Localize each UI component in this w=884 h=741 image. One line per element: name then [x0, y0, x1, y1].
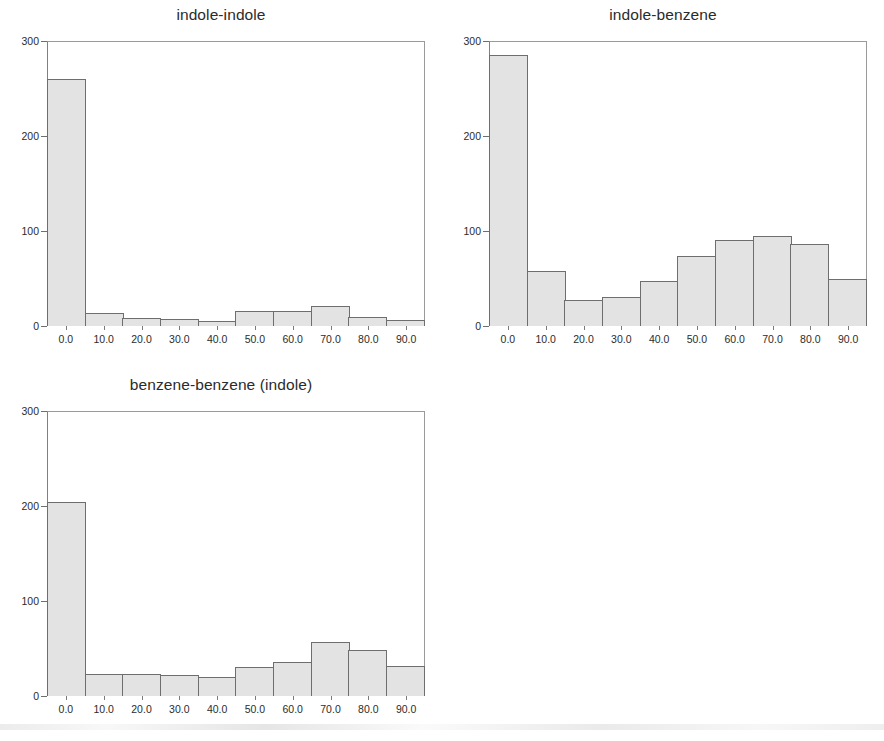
- bar-series: [489, 41, 867, 326]
- y-tick-label: 100: [21, 225, 39, 237]
- y-tick-label: 200: [21, 130, 39, 142]
- x-tick-label: 60.0: [282, 333, 302, 345]
- x-tick-label: 70.0: [762, 333, 782, 345]
- x-tick-mark: [217, 326, 218, 330]
- x-tick-mark: [293, 326, 294, 330]
- x-tick-label: 50.0: [687, 333, 707, 345]
- histogram-bar: [235, 311, 274, 326]
- y-tick-label: 0: [475, 320, 481, 332]
- histogram-bar: [489, 55, 528, 326]
- y-tick-label: 100: [463, 225, 481, 237]
- histogram-bar: [47, 79, 86, 326]
- histogram-bar: [602, 297, 641, 326]
- histogram-bar: [348, 650, 387, 696]
- y-tick-mark: [41, 411, 47, 412]
- histogram-bar: [715, 240, 754, 326]
- x-tick-mark: [293, 696, 294, 700]
- y-tick-label: 100: [21, 595, 39, 607]
- x-tick-label: 20.0: [573, 333, 593, 345]
- x-tick-mark: [104, 326, 105, 330]
- y-tick-mark: [41, 136, 47, 137]
- histogram-bar: [160, 319, 199, 326]
- histogram-bar: [85, 674, 124, 696]
- histogram-bar: [122, 674, 161, 696]
- histogram-bar: [564, 300, 603, 326]
- x-tick-mark: [255, 326, 256, 330]
- panel-title: benzene-benzene (indole): [0, 376, 442, 394]
- x-tick-label: 10.0: [535, 333, 555, 345]
- x-tick-mark: [217, 696, 218, 700]
- histogram-bar: [677, 256, 716, 326]
- histogram-bar: [85, 313, 124, 326]
- x-tick-label: 80.0: [800, 333, 820, 345]
- y-tick-mark: [41, 41, 47, 42]
- x-tick-mark: [142, 696, 143, 700]
- y-tick-label: 300: [463, 35, 481, 47]
- x-tick-mark: [331, 326, 332, 330]
- histogram-bar: [311, 306, 350, 326]
- panel-title: indole-benzene: [442, 6, 884, 24]
- bar-series: [47, 411, 425, 696]
- x-tick-mark: [406, 696, 407, 700]
- y-tick-label: 300: [21, 405, 39, 417]
- x-tick-mark: [848, 326, 849, 330]
- y-tick-label: 0: [33, 690, 39, 702]
- x-tick-label: 20.0: [131, 703, 151, 715]
- x-tick-mark: [179, 696, 180, 700]
- x-tick-label: 0.0: [59, 703, 74, 715]
- x-tick-mark: [621, 326, 622, 330]
- histogram-bar: [348, 317, 387, 327]
- histogram-bar: [640, 281, 679, 326]
- histogram-bar: [790, 244, 829, 326]
- x-tick-mark: [773, 326, 774, 330]
- x-tick-label: 0.0: [59, 333, 74, 345]
- plot-area: 0100200300 0.010.020.030.040.050.060.070…: [47, 41, 425, 326]
- x-tick-label: 40.0: [649, 333, 669, 345]
- histogram-bar: [235, 667, 274, 696]
- y-tick-mark: [41, 601, 47, 602]
- histogram-panel-indole-benzene: indole-benzene 0100200300 0.010.020.030.…: [442, 0, 884, 370]
- x-tick-mark: [508, 326, 509, 330]
- x-tick-label: 60.0: [724, 333, 744, 345]
- histogram-bar: [828, 279, 867, 326]
- x-tick-mark: [331, 696, 332, 700]
- histogram-bar: [311, 642, 350, 696]
- x-tick-label: 50.0: [245, 703, 265, 715]
- histogram-bar: [47, 502, 86, 696]
- y-tick-label: 300: [21, 35, 39, 47]
- plot-area: 0100200300 0.010.020.030.040.050.060.070…: [489, 41, 867, 326]
- x-tick-label: 90.0: [396, 333, 416, 345]
- bar-series: [47, 41, 425, 326]
- x-tick-label: 70.0: [320, 333, 340, 345]
- x-axis: 0.010.020.030.040.050.060.070.080.090.0: [47, 326, 425, 352]
- histogram-panel-indole-indole: indole-indole 0100200300 0.010.020.030.0…: [0, 0, 442, 370]
- x-tick-label: 40.0: [207, 333, 227, 345]
- x-tick-label: 70.0: [320, 703, 340, 715]
- x-axis: 0.010.020.030.040.050.060.070.080.090.0: [489, 326, 867, 352]
- x-tick-label: 10.0: [93, 333, 113, 345]
- x-tick-mark: [179, 326, 180, 330]
- x-tick-label: 20.0: [131, 333, 151, 345]
- x-tick-label: 0.0: [501, 333, 516, 345]
- x-tick-mark: [368, 326, 369, 330]
- x-tick-label: 50.0: [245, 333, 265, 345]
- histogram-bar: [753, 236, 792, 326]
- x-tick-mark: [255, 696, 256, 700]
- histogram-panel-benzene-benzene: benzene-benzene (indole) 0100200300 0.01…: [0, 370, 442, 740]
- y-tick-label: 0: [33, 320, 39, 332]
- x-tick-label: 90.0: [838, 333, 858, 345]
- x-tick-label: 30.0: [611, 333, 631, 345]
- y-tick-label: 200: [21, 500, 39, 512]
- histogram-bar: [527, 271, 566, 326]
- y-tick-label: 200: [463, 130, 481, 142]
- x-tick-mark: [142, 326, 143, 330]
- x-tick-label: 30.0: [169, 703, 189, 715]
- x-tick-label: 80.0: [358, 703, 378, 715]
- y-tick-mark: [41, 231, 47, 232]
- histogram-bar: [273, 311, 312, 326]
- figure-canvas: indole-indole 0100200300 0.010.020.030.0…: [0, 0, 884, 741]
- x-tick-mark: [66, 696, 67, 700]
- histogram-bar: [122, 318, 161, 326]
- x-tick-mark: [697, 326, 698, 330]
- x-tick-mark: [546, 326, 547, 330]
